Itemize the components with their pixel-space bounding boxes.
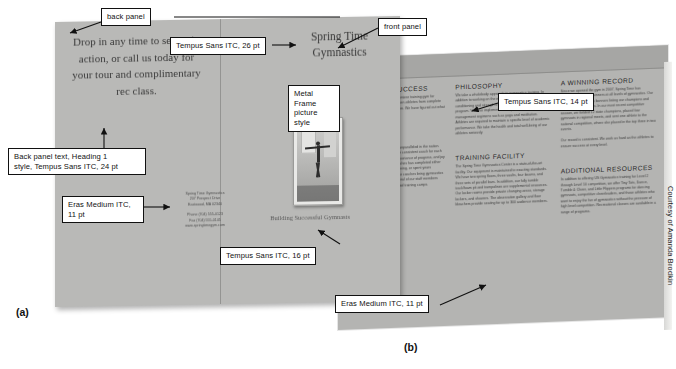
callout-title-font[interactable]: Tempus Sans ITC, 26 pt xyxy=(170,37,266,55)
figure-label-b: (b) xyxy=(404,341,417,353)
leader-heading-font xyxy=(472,103,498,111)
callout-heading-font[interactable]: Tempus Sans ITC, 14 pt xyxy=(498,93,594,111)
callout-picture-style[interactable]: Metal Frame picture style xyxy=(288,85,340,132)
leader-back-panel xyxy=(70,22,101,33)
figure-canvas: A CULTURE SUCCESS Spring Time Gymnastics… xyxy=(0,0,676,369)
callout-tagline-font[interactable]: Tempus Sans ITC, 16 pt xyxy=(220,247,316,265)
callout-body-font[interactable]: Eras Medium ITC, 11 pt xyxy=(335,295,429,313)
callout-front-panel[interactable]: front panel xyxy=(378,18,427,36)
callout-back-panel[interactable]: back panel xyxy=(101,8,151,26)
leader-lines xyxy=(0,0,676,369)
callout-address-font[interactable]: Eras Medium ITC, 11 pt xyxy=(62,196,144,223)
image-credit: Courtesy of Amanda Brodkin xyxy=(666,186,675,285)
leader-tagline-font xyxy=(318,230,340,244)
leader-body-font xyxy=(440,285,486,305)
leader-front-panel xyxy=(338,28,378,48)
callout-back-panel-text[interactable]: Back panel text, Heading 1 style, Tempus… xyxy=(8,148,146,175)
figure-label-a: (a) xyxy=(16,306,29,318)
